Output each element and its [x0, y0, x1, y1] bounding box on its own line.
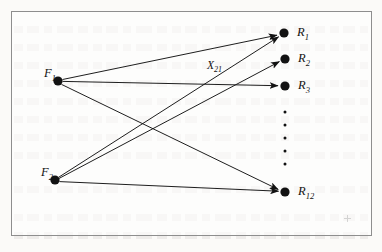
node-r1[interactable]: [279, 28, 288, 37]
node-label-f1: F1: [44, 67, 56, 82]
ellipsis-dot: [284, 137, 287, 140]
edge-label-x21: X21: [207, 60, 222, 74]
figure-root: F1 F2 R1 R2 R3 R12 X21: [0, 0, 382, 252]
ellipsis-dot: [284, 150, 287, 153]
bipartite-graph-canvas: [0, 0, 382, 252]
edge-f2-r2: [59, 62, 280, 179]
node-r12[interactable]: [280, 187, 289, 196]
node-label-r2: R2: [298, 52, 310, 67]
node-layer: [50, 28, 289, 196]
edge-f1-r3: [63, 81, 278, 85]
vertical-ellipsis: [284, 111, 287, 166]
edge-layer: [59, 35, 280, 191]
edge-f1-r12: [62, 84, 279, 189]
node-label-r12: R12: [298, 185, 314, 200]
node-r2[interactable]: [280, 54, 289, 63]
edge-f1-r1: [63, 35, 278, 79]
ellipsis-dot: [284, 124, 287, 127]
node-label-r1: R1: [297, 26, 309, 41]
node-label-r3: R3: [298, 79, 310, 94]
node-label-f2: F2: [41, 166, 53, 181]
ellipsis-dot: [284, 111, 287, 114]
node-r3[interactable]: [280, 81, 289, 90]
edge-f2-r12: [59, 182, 278, 192]
ellipsis-dot: [284, 163, 287, 166]
